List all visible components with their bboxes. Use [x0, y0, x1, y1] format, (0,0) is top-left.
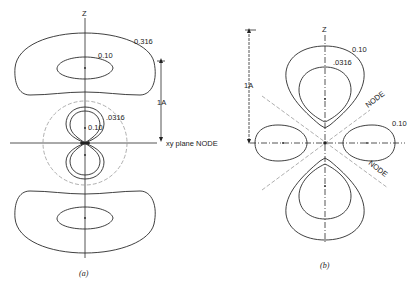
center-dot — [282, 142, 284, 144]
orbital-contour-figure: Z 0.316 0.10 .0316 0.10 1A xy — [0, 0, 415, 287]
contour-label-0316-b: .0316 — [333, 58, 352, 67]
z-axis-label-a: Z — [82, 9, 87, 18]
node-label-upper-b: NODE — [364, 89, 387, 109]
center-dot — [84, 67, 86, 69]
xy-plane-node-label: xy plane NODE — [166, 139, 218, 148]
arrow-up-icon — [247, 28, 251, 33]
contour-label-010-small-a: 0.10 — [88, 123, 103, 132]
caption-b: (b) — [320, 261, 330, 270]
center-dot — [84, 154, 86, 156]
scale-label-a: 1A — [157, 98, 166, 107]
z-axis-label-b: Z — [322, 25, 327, 34]
node-label-lower-b: NODE — [367, 158, 390, 178]
figure-b: Z 0.10 .0316 0.10 NODE NODE 1A — [244, 25, 407, 270]
center-dot — [84, 127, 86, 129]
center-dot — [366, 142, 368, 144]
arrow-up-icon — [159, 58, 163, 63]
arrow-down-icon — [159, 137, 163, 142]
side-lobe-label-b: 0.10 — [392, 119, 407, 128]
contour-label-0316-small-a: .0316 — [106, 113, 125, 122]
nucleus-a — [80, 142, 90, 145]
contour-label-010-a: 0.10 — [98, 51, 113, 60]
nucleus-b — [323, 141, 327, 145]
center-dot — [84, 217, 86, 219]
contour-label-0316-outer-a: 0.316 — [134, 37, 153, 46]
contour-label-010-b: 0.10 — [352, 45, 367, 54]
center-dot — [324, 98, 326, 100]
center-dot — [324, 185, 326, 187]
figure-a: Z 0.316 0.10 .0316 0.10 1A xy — [10, 9, 218, 278]
scale-label-b: 1A — [244, 81, 253, 90]
caption-a: (a) — [79, 269, 89, 278]
